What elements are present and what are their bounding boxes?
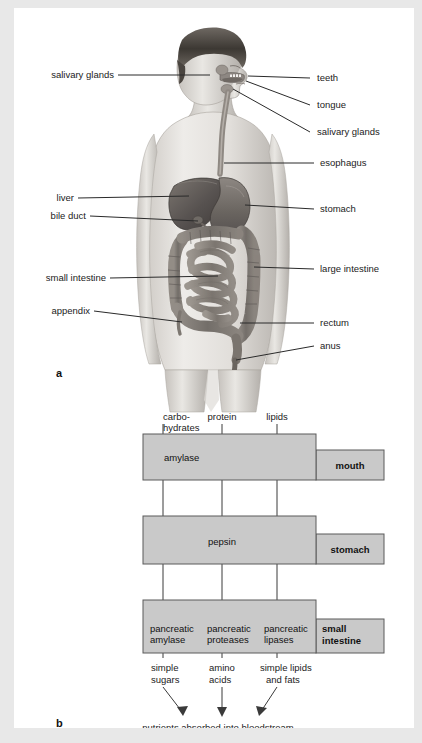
enzyme-label-pancreatic-lipases-line1: pancreatic xyxy=(264,623,308,634)
enzyme-label-pancreatic-lipases-line2: lipases xyxy=(264,634,294,645)
organ-label-mouth: mouth xyxy=(335,460,364,471)
organ-label-stomach: stomach xyxy=(330,544,369,555)
label-appendix: appendix xyxy=(51,305,90,316)
figure-sheet: salivary glands liver bile duct small in… xyxy=(14,8,414,728)
label-small-intestine: small intestine xyxy=(46,272,106,283)
label-bile-duct: bile duct xyxy=(51,210,87,221)
product-simple-sugars-line2: sugars xyxy=(151,674,180,685)
label-salivary-glands-lower: salivary glands xyxy=(317,126,380,137)
label-salivary-glands-upper: salivary glands xyxy=(51,69,114,80)
panel-letter-a: a xyxy=(56,367,63,379)
row-small-intestine: pancreatic amylase pancreatic proteases … xyxy=(143,600,384,653)
footer-nutrients-absorbed: nutrients absorbed into bloodstream xyxy=(142,722,294,728)
product-simple-lipids-line1: simple lipids xyxy=(260,662,312,673)
label-anus: anus xyxy=(320,340,341,351)
label-large-intestine: large intestine xyxy=(320,263,379,274)
arrowhead-sugars xyxy=(177,706,188,716)
panel-b-flowchart: carbo- hydrates protein lipids amylase m… xyxy=(56,411,384,728)
label-rectum: rectum xyxy=(320,317,349,328)
absorption-arrows xyxy=(163,687,277,717)
panel-a-illustration: salivary glands liver bile duct small in… xyxy=(46,28,380,413)
organ-label-small-intestine-line1: small xyxy=(322,623,346,634)
label-carbohydrates-line1: carbo- xyxy=(163,411,190,422)
row-mouth: amylase mouth xyxy=(143,434,384,480)
label-protein: protein xyxy=(207,411,236,422)
product-amino-acids-line2: acids xyxy=(209,674,231,685)
enzyme-label-pancreatic-proteases-line1: pancreatic xyxy=(207,623,251,634)
panel-letter-b: b xyxy=(56,717,63,728)
enzyme-label-pancreatic-amylase-line2: amylase xyxy=(150,634,185,645)
row-stomach: pepsin stomach xyxy=(143,516,384,564)
enzyme-label-pepsin: pepsin xyxy=(208,536,236,547)
label-liver: liver xyxy=(57,192,74,203)
product-simple-sugars-line1: simple xyxy=(151,662,178,673)
arrowhead-amino-acids xyxy=(217,707,227,717)
label-lipids: lipids xyxy=(266,411,288,422)
enzyme-label-pancreatic-proteases-line2: proteases xyxy=(207,634,249,645)
enzyme-label-pancreatic-amylase-line1: pancreatic xyxy=(150,623,194,634)
label-teeth: teeth xyxy=(317,72,338,83)
label-stomach: stomach xyxy=(320,203,356,214)
label-carbohydrates-line2: hydrates xyxy=(163,422,200,433)
arrowhead-lipids xyxy=(256,706,267,716)
organ-label-small-intestine-line2: intestine xyxy=(322,635,361,646)
label-esophagus: esophagus xyxy=(320,157,367,168)
product-simple-lipids-line2: and fats xyxy=(266,674,300,685)
product-amino-acids-line1: amino xyxy=(209,662,235,673)
label-tongue: tongue xyxy=(317,99,346,110)
enzyme-label-amylase: amylase xyxy=(164,452,199,463)
